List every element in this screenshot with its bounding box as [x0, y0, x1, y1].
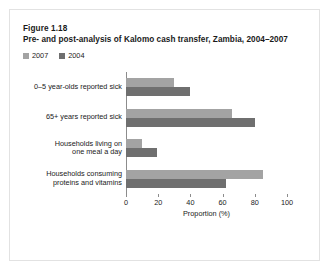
bar-2007-2: [126, 139, 142, 148]
figure-container: Figure 1.18 Pre- and post-analysis of Ka…: [9, 9, 320, 261]
bar-2007-1: [126, 109, 232, 118]
legend-item-2007: 2007: [23, 51, 48, 60]
legend-label: 2004: [68, 51, 84, 60]
x-tick-label: 40: [186, 198, 194, 207]
bar-2007-3: [126, 170, 263, 179]
category-label-0: 0–5 year-olds reported sick: [34, 83, 122, 92]
x-tick-mark: [126, 194, 127, 197]
bar-2004-3: [126, 179, 226, 188]
x-axis-ticks: 020406080100: [126, 194, 287, 210]
category-axis-labels: 0–5 year-olds reported sick65+ years rep…: [10, 72, 122, 194]
x-tick-label: 20: [154, 198, 162, 207]
legend-swatch-icon: [23, 53, 29, 59]
category-label-1: 65+ years reported sick: [46, 113, 122, 122]
x-tick-label: 80: [251, 198, 259, 207]
chart-legend: 20072004: [23, 51, 84, 60]
category-label-2: Households living on one meal a day: [55, 140, 122, 157]
category-label-3: Households consuming proteins and vitami…: [46, 170, 122, 187]
x-tick-label: 0: [124, 198, 128, 207]
bar-2004-1: [126, 118, 255, 127]
x-tick-mark: [158, 194, 159, 197]
bar-2007-0: [126, 78, 174, 87]
figure-title: Pre- and post-analysis of Kalomo cash tr…: [23, 35, 288, 44]
bar-2004-2: [126, 148, 157, 157]
legend-item-2004: 2004: [59, 51, 84, 60]
figure-number: Figure 1.18: [23, 24, 67, 33]
x-tick-label: 100: [281, 198, 293, 207]
bar-2004-0: [126, 87, 190, 96]
x-tick-mark: [255, 194, 256, 197]
legend-swatch-icon: [59, 53, 65, 59]
legend-label: 2007: [32, 51, 48, 60]
x-axis-label: Proportion (%): [126, 209, 287, 218]
x-tick-mark: [287, 194, 288, 197]
x-tick-mark: [190, 194, 191, 197]
x-tick-label: 60: [219, 198, 227, 207]
plot-area: [126, 72, 287, 194]
x-tick-mark: [223, 194, 224, 197]
